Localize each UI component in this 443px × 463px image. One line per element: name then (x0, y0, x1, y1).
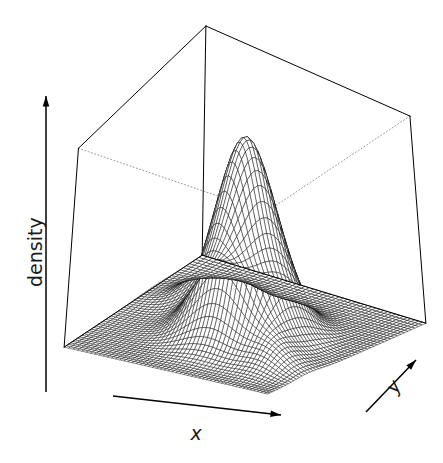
persp-surface-canvas: density x y (0, 0, 443, 463)
z-axis-label: density (24, 217, 46, 287)
z-axis-label-group: density (24, 217, 46, 287)
x-axis-label: x (189, 422, 202, 444)
x-axis-label-group: x (189, 422, 202, 444)
density-surface-plot: density x y (0, 0, 443, 463)
